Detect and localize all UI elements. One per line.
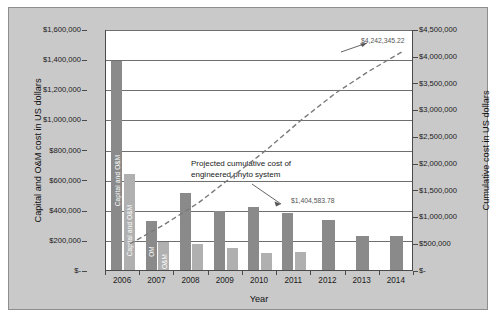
y-axis-left-tick-label: $1,200,000 bbox=[43, 86, 81, 94]
x-axis-tick-mark bbox=[139, 271, 140, 275]
x-axis-tick-mark bbox=[173, 271, 174, 275]
bar-2013-capital[interactable] bbox=[356, 236, 369, 271]
x-axis-tick-label-2012: 2012 bbox=[310, 276, 344, 285]
plot-area: Capital and O&MCapital and O&MOMO&M bbox=[105, 30, 413, 271]
x-axis-tick-mark bbox=[105, 271, 106, 275]
tick-mark bbox=[82, 60, 87, 61]
y-axis-right-tick-label: $1,000,000 bbox=[419, 213, 457, 221]
bar-2010-capital[interactable] bbox=[248, 207, 259, 271]
y-axis-right-tick-label: $3,000,000 bbox=[419, 106, 457, 114]
tick-mark bbox=[413, 190, 418, 191]
y-axis-left-tick-label: $400,000 bbox=[49, 207, 81, 215]
tick-mark bbox=[413, 137, 418, 138]
x-axis-tick-label-2009: 2009 bbox=[208, 276, 242, 285]
x-axis-tick-mark bbox=[242, 271, 243, 275]
x-axis-tick-mark bbox=[276, 271, 277, 275]
y-axis-right-tick-label: $2,500,000 bbox=[419, 133, 457, 141]
tick-mark bbox=[413, 57, 418, 58]
bar-label: Capital and O&M bbox=[113, 154, 120, 206]
x-axis-tick-mark bbox=[379, 271, 380, 275]
tick-mark bbox=[82, 271, 87, 272]
y-axis-left-tick-label: $200,000 bbox=[49, 237, 81, 245]
gridline bbox=[106, 60, 412, 61]
bar-2009-capital[interactable] bbox=[214, 211, 225, 271]
y-axis-right-tick-label: $1,500,000 bbox=[419, 187, 457, 195]
bar-2006-capital[interactable]: Capital and O&M bbox=[111, 61, 122, 271]
projection-annotation-line1: Projected cumulative cost of bbox=[191, 158, 291, 169]
x-axis-tick-label-2006: 2006 bbox=[105, 276, 139, 285]
x-axis-tick-mark bbox=[310, 271, 311, 275]
bar-2014-capital[interactable] bbox=[390, 236, 403, 271]
end-value-callout: $4,242,345.22 bbox=[361, 37, 404, 44]
x-axis-tick-label-2008: 2008 bbox=[174, 276, 208, 285]
gridline bbox=[106, 90, 412, 91]
tick-mark bbox=[413, 110, 418, 111]
tick-mark bbox=[82, 30, 87, 31]
y-axis-right-tick-label: $2,000,000 bbox=[419, 160, 457, 168]
chart-figure: Capital and O&M cost in US dollars Cumul… bbox=[0, 0, 496, 319]
bar-2010-om[interactable] bbox=[261, 253, 272, 271]
y-axis-right-tick-label: $500,000 bbox=[419, 240, 451, 248]
mid-value-callout: $1,404,583.78 bbox=[291, 197, 334, 204]
bar-2008-capital[interactable] bbox=[180, 193, 191, 271]
x-axis-tick-label-2013: 2013 bbox=[345, 276, 379, 285]
tick-mark bbox=[413, 164, 418, 165]
gridline bbox=[106, 151, 412, 152]
y-axis-label-left: Capital and O&M cost in US dollars bbox=[31, 30, 45, 271]
bar-2011-om[interactable] bbox=[295, 252, 306, 271]
y-axis-right-tick-label: $- bbox=[419, 267, 426, 275]
projection-annotation-line2: engineered phyto system bbox=[191, 169, 291, 180]
x-axis-tick-mark bbox=[413, 271, 414, 275]
y-axis-left-tick-label: $1,000,000 bbox=[43, 116, 81, 124]
tick-mark bbox=[82, 150, 87, 151]
x-axis-baseline bbox=[106, 270, 412, 271]
tick-mark bbox=[82, 120, 87, 121]
bar-label: OM bbox=[148, 246, 155, 257]
chart-plate: Capital and O&M cost in US dollars Cumul… bbox=[8, 7, 488, 310]
y-axis-left-tick-label: $800,000 bbox=[49, 147, 81, 155]
tick-mark bbox=[413, 30, 418, 31]
y-axis-right-tick-label: $4,500,000 bbox=[419, 26, 457, 34]
tick-mark bbox=[82, 241, 87, 242]
y-axis-left-tick-label: $- bbox=[74, 267, 81, 275]
projection-annotation: Projected cumulative cost of engineered … bbox=[191, 158, 291, 180]
tick-mark bbox=[82, 90, 87, 91]
bar-2012-capital[interactable] bbox=[322, 220, 335, 271]
x-axis-tick-label-2011: 2011 bbox=[276, 276, 310, 285]
bar-2009-om[interactable] bbox=[227, 248, 238, 271]
tick-mark bbox=[82, 180, 87, 181]
y-axis-left-tick-label: $1,600,000 bbox=[43, 26, 81, 34]
tick-mark bbox=[413, 83, 418, 84]
bar-2006-om[interactable]: Capital and O&M bbox=[124, 174, 135, 271]
tick-mark bbox=[413, 244, 418, 245]
bar-2011-capital[interactable] bbox=[282, 213, 293, 271]
x-axis-tick-label-2014: 2014 bbox=[379, 276, 413, 285]
gridline bbox=[106, 30, 412, 31]
gridline bbox=[106, 181, 412, 182]
y-axis-label-right: Cumulative cost in US dollars bbox=[479, 30, 493, 271]
tick-mark bbox=[413, 217, 418, 218]
y-axis-left-tick-label: $600,000 bbox=[49, 177, 81, 185]
x-axis-tick-mark bbox=[208, 271, 209, 275]
bar-label: Capital and O&M bbox=[126, 205, 133, 257]
x-axis-tick-label-2007: 2007 bbox=[139, 276, 173, 285]
x-axis-tick-mark bbox=[345, 271, 346, 275]
bar-2007-capital[interactable]: OM bbox=[146, 221, 157, 271]
tick-mark bbox=[82, 211, 87, 212]
gridline bbox=[106, 120, 412, 121]
bar-2007-om[interactable]: O&M bbox=[158, 242, 169, 271]
x-axis-label: Year bbox=[105, 294, 413, 304]
bar-label: O&M bbox=[160, 254, 167, 269]
bar-2008-om[interactable] bbox=[192, 244, 203, 271]
y-axis-right-tick-label: $4,000,000 bbox=[419, 53, 457, 61]
x-axis-tick-label-2010: 2010 bbox=[242, 276, 276, 285]
y-axis-right-tick-label: $3,500,000 bbox=[419, 80, 457, 88]
y-axis-left-tick-label: $1,400,000 bbox=[43, 56, 81, 64]
